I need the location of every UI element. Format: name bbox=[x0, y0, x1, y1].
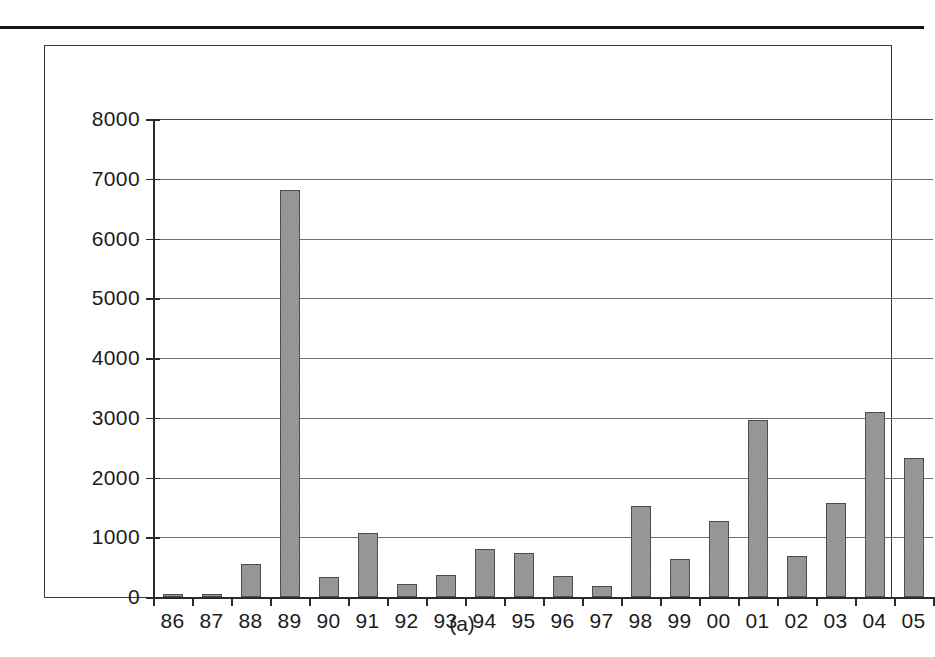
bar-94 bbox=[475, 549, 495, 597]
x-axis-tick bbox=[933, 597, 935, 606]
x-axis-tick bbox=[738, 597, 740, 606]
y-axis-labels: 800070006000500040003000200010000 bbox=[45, 46, 140, 599]
bar-01 bbox=[748, 420, 768, 597]
x-axis-tick bbox=[504, 597, 506, 606]
y-axis-tick-label: 0 bbox=[48, 586, 140, 607]
y-axis-tick-label: 5000 bbox=[48, 287, 140, 308]
bar-91 bbox=[358, 533, 378, 597]
gridline bbox=[153, 298, 933, 299]
x-axis-tick bbox=[153, 597, 155, 606]
y-axis-tick bbox=[146, 119, 160, 121]
bar-99 bbox=[670, 559, 690, 597]
y-axis-tick-label: 6000 bbox=[48, 228, 140, 249]
x-axis-tick bbox=[387, 597, 389, 606]
gridline bbox=[153, 418, 933, 419]
y-axis-tick-label: 8000 bbox=[48, 108, 140, 129]
x-axis-tick bbox=[543, 597, 545, 606]
bar-04 bbox=[865, 412, 885, 597]
bar-89 bbox=[280, 190, 300, 597]
y-axis-tick bbox=[146, 537, 160, 539]
bar-00 bbox=[709, 521, 729, 597]
bar-97 bbox=[592, 586, 612, 597]
figure-caption: (a) bbox=[0, 612, 924, 636]
x-axis-tick bbox=[855, 597, 857, 606]
x-axis-tick bbox=[777, 597, 779, 606]
x-axis-tick bbox=[231, 597, 233, 606]
bar-98 bbox=[631, 506, 651, 597]
x-axis-tick bbox=[699, 597, 701, 606]
bar-96 bbox=[553, 576, 573, 597]
y-axis-tick-label: 2000 bbox=[48, 467, 140, 488]
gridline bbox=[153, 358, 933, 359]
plot-area bbox=[153, 119, 933, 597]
y-axis-tick bbox=[146, 179, 160, 181]
x-axis-tick bbox=[270, 597, 272, 606]
y-axis-tick bbox=[146, 358, 160, 360]
bar-05 bbox=[904, 458, 924, 597]
gridline bbox=[153, 478, 933, 479]
bar-03 bbox=[826, 503, 846, 597]
x-axis-tick bbox=[309, 597, 311, 606]
bar-90 bbox=[319, 577, 339, 597]
x-axis-tick bbox=[894, 597, 896, 606]
gridline bbox=[153, 179, 933, 180]
x-axis-tick bbox=[816, 597, 818, 606]
y-axis-tick-label: 4000 bbox=[48, 347, 140, 368]
bar-92 bbox=[397, 584, 417, 597]
gridline bbox=[153, 537, 933, 538]
x-axis-tick bbox=[465, 597, 467, 606]
y-axis-tick bbox=[146, 418, 160, 420]
page-horizontal-rule bbox=[0, 26, 924, 29]
bar-88 bbox=[241, 564, 261, 597]
gridline bbox=[153, 239, 933, 240]
y-axis-tick bbox=[146, 478, 160, 480]
x-axis-tick bbox=[348, 597, 350, 606]
y-axis-tick bbox=[146, 298, 160, 300]
x-axis-tick bbox=[192, 597, 194, 606]
y-axis-tick-label: 3000 bbox=[48, 407, 140, 428]
x-axis-tick bbox=[426, 597, 428, 606]
y-axis-tick-label: 1000 bbox=[48, 526, 140, 547]
x-axis-tick bbox=[660, 597, 662, 606]
y-axis-tick bbox=[146, 239, 160, 241]
gridline bbox=[153, 119, 933, 120]
x-axis-tick bbox=[582, 597, 584, 606]
bar-02 bbox=[787, 556, 807, 597]
bar-93 bbox=[436, 575, 456, 597]
y-axis-tick-label: 7000 bbox=[48, 168, 140, 189]
x-axis-tick bbox=[621, 597, 623, 606]
bar-95 bbox=[514, 553, 534, 597]
figure-frame: 800070006000500040003000200010000 868788… bbox=[44, 45, 892, 598]
